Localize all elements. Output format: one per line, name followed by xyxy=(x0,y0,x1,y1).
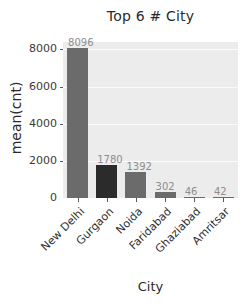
x-axis-tick-mark xyxy=(107,198,108,202)
bar-value-label: 302 xyxy=(156,181,175,192)
plot-area xyxy=(63,42,238,198)
bar-value-label: 8096 xyxy=(68,37,93,48)
bar xyxy=(96,165,117,198)
bar xyxy=(67,48,88,198)
x-axis-tick-mark xyxy=(223,198,224,202)
x-axis-label: City xyxy=(63,279,238,294)
bar-series xyxy=(63,42,238,198)
y-axis-tick-label: 0 xyxy=(15,191,57,204)
y-axis-tick-mark xyxy=(60,49,63,50)
x-axis-tick-mark xyxy=(78,198,79,202)
y-axis-tick-label: 6000 xyxy=(15,80,57,93)
y-axis-tick-label: 4000 xyxy=(15,117,57,130)
y-axis-tick-mark xyxy=(60,87,63,88)
x-axis-tick-mark xyxy=(194,198,195,202)
y-axis-tick-mark xyxy=(60,161,63,162)
x-axis-tick-mark xyxy=(136,198,137,202)
y-axis-tick-mark xyxy=(60,124,63,125)
bar-value-label: 1780 xyxy=(97,154,122,165)
bar-value-label: 46 xyxy=(185,186,198,197)
y-axis-tick-label: 8000 xyxy=(15,42,57,55)
chart-title: Top 6 # City xyxy=(63,8,238,24)
bar-value-label: 1392 xyxy=(126,161,151,172)
y-axis-tick-label: 2000 xyxy=(15,154,57,167)
bar xyxy=(125,172,146,198)
bar-chart-figure: Top 6 # City mean(cnt) 02000400060008000… xyxy=(0,0,249,306)
bar-value-label: 42 xyxy=(214,186,227,197)
x-axis-tick-mark xyxy=(165,198,166,202)
